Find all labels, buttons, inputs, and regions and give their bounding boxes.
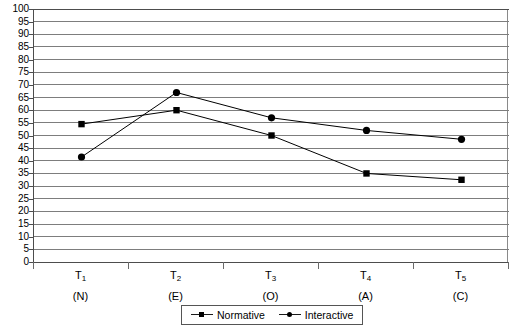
category-trait-initial: (E): [128, 290, 223, 303]
y-axis-tick-label: 75: [0, 67, 29, 77]
y-axis-tick-label: 35: [0, 168, 29, 178]
y-axis-tick-label: 90: [0, 29, 29, 39]
series-line: [82, 92, 462, 157]
legend-marker-square-icon: [191, 310, 213, 320]
data-point-marker: [173, 89, 180, 96]
y-axis-tick-label: 5: [0, 244, 29, 254]
y-axis-tick-label: 15: [0, 219, 29, 229]
x-axis-category-label: T1(N): [33, 269, 128, 303]
category-trait-initial: (O): [223, 290, 318, 303]
y-axis-tick-label: 60: [0, 105, 29, 115]
y-axis-tick-label: 0: [0, 257, 29, 267]
category-trait-index: 5: [462, 274, 466, 283]
plot-svg: [34, 9, 509, 262]
x-axis-category-label: T3(O): [223, 269, 318, 303]
category-trait-index: 3: [272, 274, 276, 283]
legend-key-marker: [199, 312, 204, 317]
x-axis-tick: [508, 262, 509, 269]
y-axis-tick-labels: 0510152025303540455055606570758085909510…: [0, 9, 29, 262]
data-point-marker: [78, 153, 85, 160]
y-axis-tick-label: 55: [0, 118, 29, 128]
category-trait-code: T5: [413, 269, 508, 283]
data-point-marker: [78, 121, 84, 127]
data-point-marker: [458, 177, 464, 183]
legend-key-marker: [287, 312, 292, 317]
x-axis-category-label: T5(C): [413, 269, 508, 303]
x-axis-tick: [33, 262, 34, 269]
x-axis-category-label: T2(E): [128, 269, 223, 303]
category-trait-code: T3: [223, 269, 318, 283]
y-axis-tick-label: 70: [0, 80, 29, 90]
x-axis-tick: [128, 262, 129, 269]
category-trait-index: 4: [367, 274, 371, 283]
data-point-marker: [173, 107, 179, 113]
y-axis-tick-label: 65: [0, 93, 29, 103]
y-axis-tick-label: 95: [0, 17, 29, 27]
chart-legend: NormativeInteractive: [181, 305, 363, 325]
legend-marker-circle-icon: [279, 310, 301, 320]
y-axis-tick-label: 40: [0, 156, 29, 166]
y-axis-tick-label: 50: [0, 131, 29, 141]
legend-label: Normative: [217, 310, 265, 321]
legend-label: Interactive: [305, 310, 353, 321]
category-trait-initial: (N): [33, 290, 128, 303]
category-trait-index: 1: [82, 274, 86, 283]
data-point-marker: [363, 127, 370, 134]
y-axis-tick-label: 20: [0, 206, 29, 216]
category-trait-index: 2: [177, 274, 181, 283]
data-point-marker: [458, 136, 465, 143]
x-axis-line: [33, 262, 508, 263]
line-chart: 0510152025303540455055606570758085909510…: [0, 0, 519, 330]
category-trait-initial: (A): [318, 290, 413, 303]
x-axis-tick: [223, 262, 224, 269]
y-axis-tick-label: 100: [0, 4, 29, 14]
plot-area: [33, 9, 508, 262]
category-trait-code: T2: [128, 269, 223, 283]
legend-item: Normative: [191, 310, 265, 321]
x-axis-category-label: T4(A): [318, 269, 413, 303]
data-point-marker: [363, 170, 369, 176]
legend-item: Interactive: [279, 310, 353, 321]
y-axis-tick-label: 80: [0, 55, 29, 65]
y-axis-tick-label: 85: [0, 42, 29, 52]
category-trait-initial: (C): [413, 290, 508, 303]
category-trait-code: T1: [33, 269, 128, 283]
data-point-marker: [268, 132, 274, 138]
x-axis-tick: [413, 262, 414, 269]
y-axis-tick-label: 30: [0, 181, 29, 191]
data-point-marker: [268, 114, 275, 121]
x-axis-tick: [318, 262, 319, 269]
category-trait-code: T4: [318, 269, 413, 283]
y-axis-tick-label: 10: [0, 232, 29, 242]
y-axis-tick-label: 45: [0, 143, 29, 153]
y-axis-tick-label: 25: [0, 194, 29, 204]
